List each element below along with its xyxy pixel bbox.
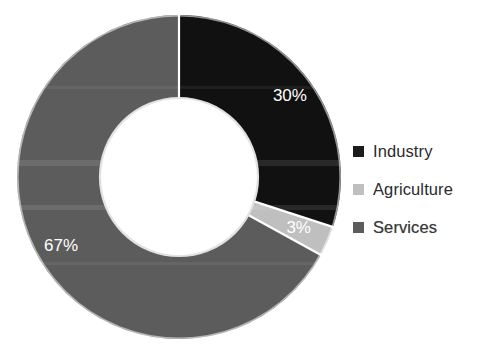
chart-legend: Industry Agriculture Services [353,132,483,246]
slice-label-services: 67% [44,236,78,255]
legend-item-industry[interactable]: Industry [353,132,483,170]
legend-label-industry: Industry [373,142,433,161]
slice-label-industry: 30% [273,86,307,105]
scanline-band [17,262,341,265]
legend-item-agriculture[interactable]: Agriculture [353,170,483,208]
slice-label-agriculture: 3% [286,218,311,237]
legend-item-services[interactable]: Services [353,208,483,246]
legend-swatch-industry [353,146,364,157]
donut-chart-figure: 30% 3% 67% Industry Agriculture Services [0,0,485,359]
legend-label-agriculture: Agriculture [373,180,453,199]
legend-label-services: Services [373,218,437,237]
legend-swatch-agriculture [353,184,364,195]
legend-swatch-services [353,222,364,233]
